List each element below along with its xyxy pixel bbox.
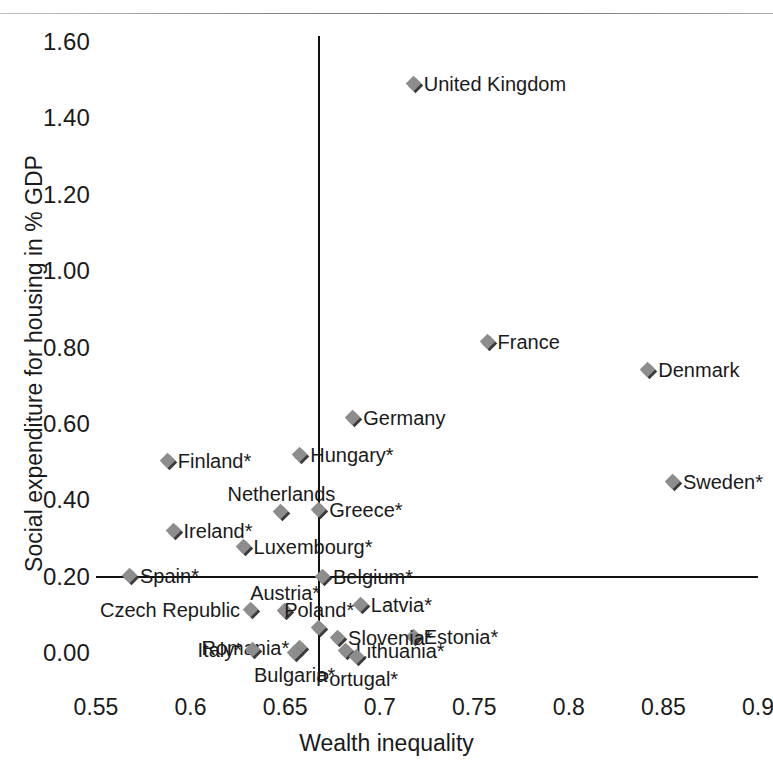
data-point-label: Sweden* bbox=[683, 472, 763, 492]
y-tick-label: 1.40 bbox=[43, 104, 90, 132]
y-tick-label: 0.20 bbox=[43, 563, 90, 591]
x-tick-label: 0.6 bbox=[175, 694, 207, 721]
data-point-label: Luxembourg* bbox=[254, 537, 373, 557]
data-point-label: United Kingdom bbox=[424, 74, 566, 94]
diamond-marker-icon bbox=[292, 447, 308, 463]
x-tick-label: 0.65 bbox=[263, 694, 308, 721]
diamond-marker-icon bbox=[640, 362, 656, 378]
diamond-marker-icon bbox=[243, 602, 259, 618]
diamond-marker-icon bbox=[273, 504, 289, 520]
plot-area: 0.000.200.400.600.801.001.201.401.60 0.5… bbox=[0, 0, 773, 777]
diamond-marker-icon bbox=[122, 568, 138, 584]
data-point-label: Spain* bbox=[140, 566, 199, 586]
diamond-marker-icon bbox=[480, 334, 496, 350]
data-point-label: France bbox=[498, 332, 560, 352]
diamond-marker-icon bbox=[287, 645, 303, 661]
x-axis-title: Wealth inequality bbox=[0, 730, 773, 757]
data-point-label: Germany bbox=[363, 408, 445, 428]
y-tick-label: 0.60 bbox=[43, 410, 90, 438]
diamond-marker-icon bbox=[665, 474, 681, 490]
data-point-label: Belgium* bbox=[333, 567, 413, 587]
x-tick-label: 0.55 bbox=[74, 694, 119, 721]
x-tick-label: 0.8 bbox=[553, 694, 585, 721]
diamond-marker-icon bbox=[349, 649, 365, 665]
data-point-label: Ireland* bbox=[184, 521, 253, 541]
diamond-marker-icon bbox=[406, 76, 422, 92]
data-point-label: Netherlands bbox=[227, 484, 335, 504]
x-tick-label: 0.9 bbox=[742, 694, 773, 721]
x-tick-label: 0.7 bbox=[364, 694, 396, 721]
data-point-label: Finland* bbox=[178, 451, 251, 471]
x-tick-label: 0.85 bbox=[641, 694, 686, 721]
y-tick-label: 0.00 bbox=[43, 639, 90, 667]
diamond-marker-icon bbox=[345, 410, 361, 426]
diamond-marker-icon bbox=[245, 642, 261, 658]
data-point-label: Denmark bbox=[658, 360, 739, 380]
diamond-marker-icon bbox=[236, 539, 252, 555]
scatter-chart-figure: 0.000.200.400.600.801.001.201.401.60 0.5… bbox=[0, 0, 773, 777]
x-tick-label: 0.75 bbox=[452, 694, 497, 721]
data-point-label: Hungary* bbox=[310, 445, 393, 465]
diamond-marker-icon bbox=[160, 453, 176, 469]
data-point-label: Italy* bbox=[198, 640, 242, 660]
diamond-marker-icon bbox=[311, 620, 327, 636]
y-tick-label: 1.20 bbox=[43, 181, 90, 209]
diamond-marker-icon bbox=[166, 523, 182, 539]
diamond-marker-icon bbox=[353, 597, 369, 613]
data-point-label: Lithuania* bbox=[356, 641, 445, 661]
data-point-label: Portugal* bbox=[316, 669, 398, 689]
y-tick-label: 1.00 bbox=[43, 257, 90, 285]
data-point-label: Greece* bbox=[329, 500, 402, 520]
data-point-label: Poland* bbox=[284, 600, 354, 620]
y-tick-label: 0.40 bbox=[43, 486, 90, 514]
y-tick-label: 0.80 bbox=[43, 334, 90, 362]
y-axis-title: Social expenditure for housing in % GDP bbox=[21, 94, 48, 634]
data-point-label: Latvia* bbox=[371, 595, 432, 615]
data-point-label: Czech Republic bbox=[100, 600, 240, 620]
y-tick-label: 1.60 bbox=[43, 28, 90, 56]
